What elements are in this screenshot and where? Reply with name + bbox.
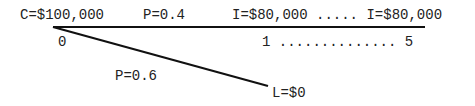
cost-label: C=$100,000 xyxy=(20,8,104,22)
income-label: I=$80,000 ..... I=$80,000 xyxy=(232,8,442,22)
period-label: 1 .............. 5 xyxy=(262,35,413,49)
loss-label: L=$0 xyxy=(272,86,306,100)
upper-probability-label: P=0.4 xyxy=(143,8,185,22)
lower-branch-line xyxy=(53,27,268,86)
lower-probability-label: P=0.6 xyxy=(115,69,157,83)
time-zero-label: 0 xyxy=(58,35,66,49)
